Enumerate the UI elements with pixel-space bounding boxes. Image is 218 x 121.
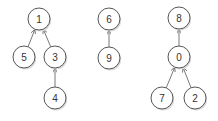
- node-2: 2: [184, 87, 207, 111]
- node-label: 5: [21, 52, 27, 63]
- node-label: 9: [106, 53, 112, 64]
- node-3: 3: [44, 46, 67, 70]
- node-6: 6: [98, 8, 121, 32]
- node-label: 8: [176, 13, 182, 24]
- node-7: 7: [151, 87, 174, 111]
- node-label: 4: [52, 93, 58, 104]
- edge-3-to-1: [43, 30, 50, 47]
- node-label: 2: [192, 93, 198, 104]
- node-label: 0: [176, 52, 182, 63]
- node-label: 1: [36, 14, 42, 25]
- node-9: 9: [98, 47, 121, 71]
- edge-7-to-0: [166, 68, 174, 88]
- edge-2-to-0: [183, 68, 191, 88]
- node-label: 3: [52, 52, 58, 63]
- node-label: 7: [159, 93, 165, 104]
- node-1: 1: [28, 8, 51, 32]
- edge-5-to-1: [28, 30, 35, 47]
- nodes-group: 1534698072: [13, 7, 207, 111]
- node-label: 6: [106, 14, 112, 25]
- forest-diagram: 1534698072: [0, 0, 218, 121]
- node-8: 8: [168, 7, 191, 31]
- node-4: 4: [44, 87, 67, 111]
- node-0: 0: [168, 46, 191, 70]
- node-5: 5: [13, 46, 36, 70]
